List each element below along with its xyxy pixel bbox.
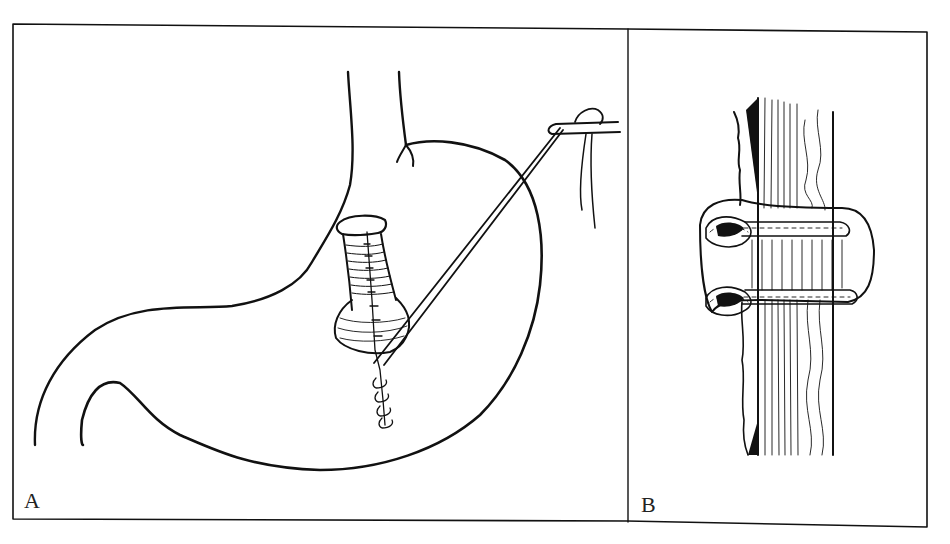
panel-label-b: B — [641, 494, 656, 516]
panel-b-drawing — [0, 0, 950, 544]
panel-label-a: A — [24, 490, 40, 512]
longitudinal-fibers — [764, 98, 825, 455]
medical-illustration-figure: A B — [0, 0, 950, 544]
